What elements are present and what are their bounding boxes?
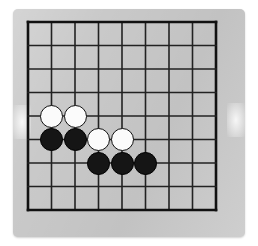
black-stone-b4[interactable]	[40, 128, 63, 151]
black-stone-f3[interactable]	[134, 152, 157, 175]
white-stone-e4[interactable]	[111, 128, 134, 151]
go-board-scene	[0, 0, 258, 246]
black-stone-c4[interactable]	[64, 128, 87, 151]
black-stone-d3[interactable]	[87, 152, 110, 175]
white-stone-b5[interactable]	[40, 105, 63, 128]
white-stone-d4[interactable]	[87, 128, 110, 151]
stones-layer[interactable]	[13, 9, 245, 237]
white-stone-c5[interactable]	[64, 105, 87, 128]
black-stone-e3[interactable]	[111, 152, 134, 175]
